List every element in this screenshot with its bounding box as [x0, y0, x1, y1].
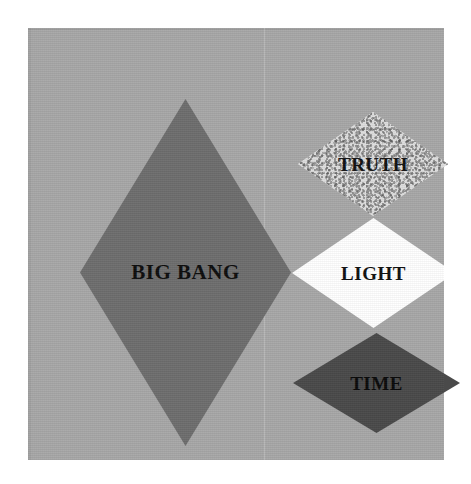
diamond-truth: TRUTH — [298, 112, 448, 216]
diamond-big-bang: BIG BANG — [80, 99, 291, 446]
diamond-label-time: TIME — [350, 374, 403, 393]
panel-top-shade — [28, 28, 444, 30]
diamond-label-big-bang: BIG BANG — [131, 262, 239, 283]
gray-background-panel: BIG BANG TRUTH LIGHT TIME — [28, 28, 444, 460]
diamond-label-truth: TRUTH — [338, 155, 408, 174]
panel-left-shade — [28, 28, 31, 460]
artwork-canvas: BIG BANG TRUTH LIGHT TIME — [0, 0, 471, 484]
diamond-light: LIGHT — [292, 218, 455, 328]
diamond-label-light: LIGHT — [341, 264, 406, 283]
diamond-time: TIME — [293, 333, 460, 433]
